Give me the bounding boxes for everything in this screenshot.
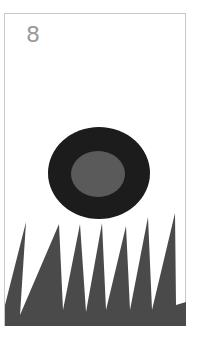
game-scene bbox=[0, 0, 199, 355]
spikes-hazard bbox=[5, 213, 186, 326]
ball-inner bbox=[71, 151, 125, 197]
